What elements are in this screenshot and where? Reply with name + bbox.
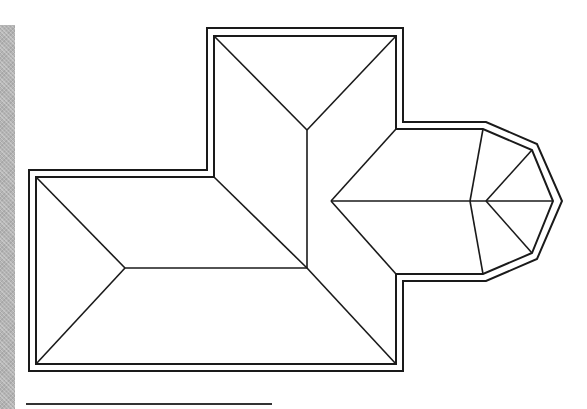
ridge-line — [214, 177, 307, 268]
ridge-line — [307, 36, 396, 130]
ridge-line — [36, 177, 125, 268]
ridge-line — [486, 201, 532, 253]
ridge-line — [307, 268, 396, 364]
ridge-line — [36, 268, 125, 364]
caption-underline — [26, 403, 272, 405]
ridge-line — [331, 129, 396, 201]
roof-plan-diagram — [0, 0, 587, 409]
roof-outer-outline — [29, 28, 562, 371]
ridge-line — [331, 201, 396, 274]
ridge-line — [486, 150, 532, 201]
ridge-line — [470, 129, 483, 201]
ridge-line — [470, 201, 483, 274]
roof-inner-outline — [36, 36, 553, 364]
roof-ridge-lines — [36, 36, 553, 364]
ridge-line — [214, 36, 307, 130]
